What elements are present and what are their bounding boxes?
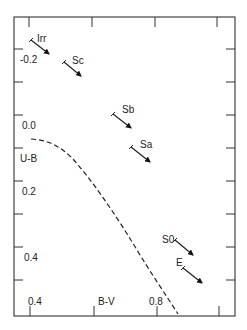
label-sa: Sa <box>140 139 153 150</box>
label-sb: Sb <box>122 104 135 115</box>
arrow-sa: Sa <box>129 139 153 162</box>
right-ticks <box>226 49 235 280</box>
x-axis-label: B-V <box>98 296 115 307</box>
y-tick-label: 0.4 <box>24 252 38 263</box>
label-sc: Sc <box>72 55 84 66</box>
arrow-irr: Irr <box>29 33 49 54</box>
y-tick-label: 0.2 <box>22 186 36 197</box>
bottom-ticks <box>30 306 219 316</box>
label-e: E <box>176 257 183 268</box>
arrow-sc: Sc <box>62 55 84 76</box>
y-tick-label: -0.2 <box>20 54 38 65</box>
top-ticks <box>29 17 217 27</box>
y-tick-label: 0.0 <box>22 120 36 131</box>
label-irr: Irr <box>37 33 47 44</box>
color-color-diagram: -0.2 0.0 U-B 0.2 0.4 0.4 B-V 0.8 Irr Sc … <box>0 0 247 330</box>
arrow-sb: Sb <box>111 104 135 128</box>
y-axis-label: U-B <box>20 153 38 164</box>
dashed-curve <box>31 139 178 314</box>
x-tick-label: 0.4 <box>28 296 42 307</box>
arrow-e: E <box>176 257 202 283</box>
arrow-s0: S0 <box>162 234 193 255</box>
x-tick-label: 0.8 <box>149 296 163 307</box>
left-ticks <box>14 49 23 280</box>
label-s0: S0 <box>162 234 175 245</box>
plot-frame <box>14 17 235 316</box>
